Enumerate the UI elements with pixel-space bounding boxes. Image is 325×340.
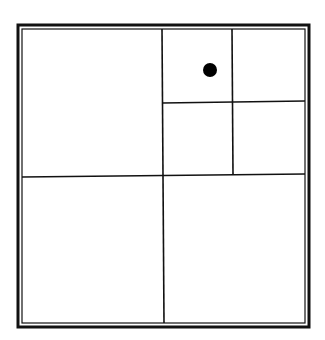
quadtree-diagram <box>0 0 325 340</box>
data-point-dot <box>203 63 217 77</box>
